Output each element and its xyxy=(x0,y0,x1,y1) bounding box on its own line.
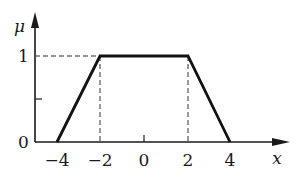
x-tick-label-4: 4 xyxy=(225,150,236,170)
x-axis-arrow-icon xyxy=(272,138,290,146)
x-tick-label-2: 2 xyxy=(183,150,194,170)
y-axis-arrow-icon xyxy=(31,12,39,28)
y-tick-label-0: 0 xyxy=(18,132,29,152)
x-tick-label-m4: −4 xyxy=(44,150,69,170)
y-tick-label-1: 1 xyxy=(18,46,29,66)
x-tick-label-m2: −2 xyxy=(87,150,112,170)
x-tick-label-0: 0 xyxy=(139,150,150,170)
membership-chart: μ 1 0 −4 −2 0 2 4 x xyxy=(0,0,306,179)
trapezoid-curve xyxy=(57,56,230,142)
x-axis-label: x xyxy=(272,148,282,168)
y-axis-label: μ xyxy=(14,16,25,36)
